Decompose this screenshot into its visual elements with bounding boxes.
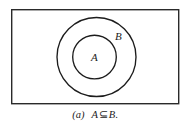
caption-index: (a) (72, 109, 84, 120)
subset-operator-icon: ⊆ (98, 109, 109, 120)
set-label-a: A (91, 52, 98, 63)
set-label-b: B (115, 31, 122, 42)
figure-caption: (a)A⊆B. (0, 109, 190, 122)
caption-left-operand: A (91, 109, 97, 120)
caption-terminator: . (115, 109, 118, 120)
figure-container: B A (a)A⊆B. (0, 0, 190, 132)
